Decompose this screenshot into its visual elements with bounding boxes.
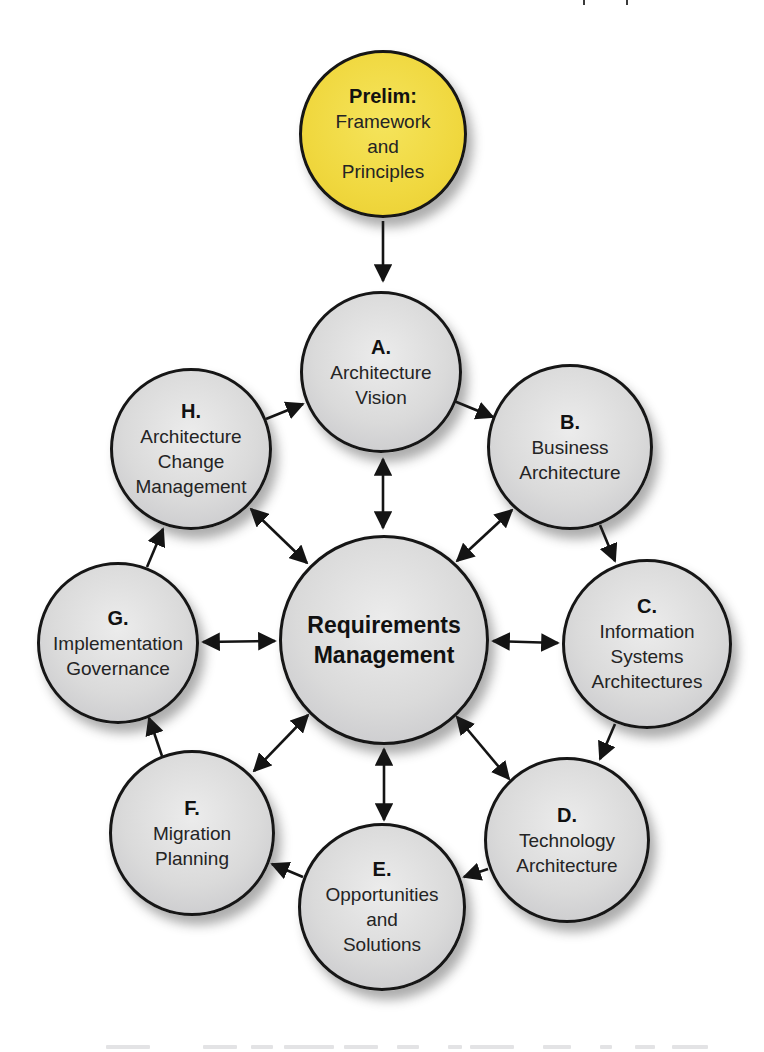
node-f-migration-planning: F. Migration Planning bbox=[109, 750, 275, 916]
node-label-line: Migration bbox=[153, 821, 231, 846]
node-label-line: Architecture bbox=[519, 460, 620, 485]
node-label-line: and bbox=[366, 907, 398, 932]
node-label-line: Architecture bbox=[140, 424, 241, 449]
node-label-line: Change bbox=[158, 449, 225, 474]
node-letter: D. bbox=[557, 803, 577, 828]
node-b-business-architecture: B. Business Architecture bbox=[487, 364, 653, 530]
node-label-line: Management bbox=[314, 640, 455, 670]
node-label-line: Architectures bbox=[592, 669, 703, 694]
node-d-technology-architecture: D. Technology Architecture bbox=[484, 757, 650, 923]
node-label-line: and bbox=[367, 134, 399, 159]
node-label-line: Opportunities bbox=[325, 882, 438, 907]
node-a-architecture-vision: A. Architecture Vision bbox=[300, 291, 462, 453]
node-letter: C. bbox=[637, 594, 657, 619]
node-label-line: Business bbox=[531, 435, 608, 460]
node-letter: E. bbox=[373, 857, 392, 882]
node-e-opportunities-and-solutions: E. Opportunities and Solutions bbox=[298, 823, 466, 991]
node-label-line: Information bbox=[599, 619, 694, 644]
node-label-line: Architecture bbox=[516, 853, 617, 878]
node-h-architecture-change-management: H. Architecture Change Management bbox=[110, 368, 272, 530]
node-label-line: Vision bbox=[355, 385, 406, 410]
node-label-line: Requirements bbox=[307, 610, 460, 640]
node-label-line: Governance bbox=[66, 656, 170, 681]
node-requirements-management: Requirements Management bbox=[279, 535, 489, 745]
adm-cycle-diagram: Prelim: Framework and Principles A. Arch… bbox=[0, 0, 764, 1052]
node-label-line: Framework bbox=[335, 109, 430, 134]
node-letter: A. bbox=[371, 335, 391, 360]
node-label-line: Management bbox=[136, 474, 247, 499]
node-label-line: Implementation bbox=[53, 631, 183, 656]
node-c-information-systems-architectures: C. Information Systems Architectures bbox=[562, 559, 732, 729]
node-label-line: Architecture bbox=[330, 360, 431, 385]
node-letter: H. bbox=[181, 399, 201, 424]
node-preliminary-phase: Prelim: Framework and Principles bbox=[299, 50, 467, 218]
node-letter: F. bbox=[184, 796, 200, 821]
node-label-line: Solutions bbox=[343, 932, 421, 957]
node-label-line: Principles bbox=[342, 159, 424, 184]
node-label-line: Technology bbox=[519, 828, 615, 853]
node-letter: B. bbox=[560, 410, 580, 435]
node-label-line: Planning bbox=[155, 846, 229, 871]
node-letter: G. bbox=[107, 606, 128, 631]
node-label-line: Systems bbox=[611, 644, 684, 669]
node-g-implementation-governance: G. Implementation Governance bbox=[37, 562, 199, 724]
node-letter: Prelim: bbox=[349, 84, 417, 109]
